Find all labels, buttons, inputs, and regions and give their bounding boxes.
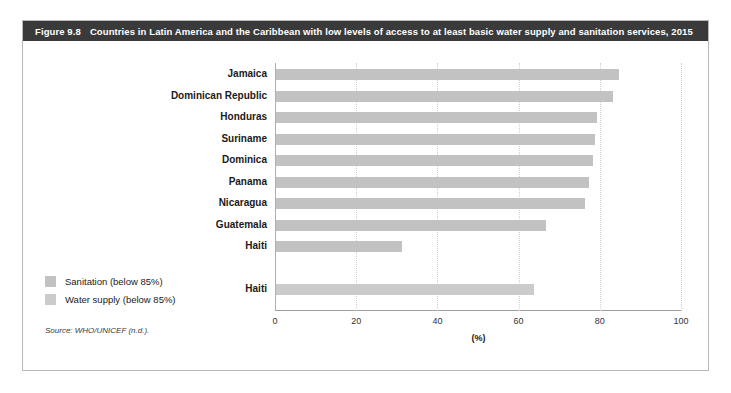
bar-fill-sanitation	[276, 155, 593, 166]
bar	[276, 91, 613, 102]
bar	[276, 134, 595, 145]
bar	[276, 155, 593, 166]
bar-fill-sanitation	[276, 112, 597, 123]
legend-swatch-sanitation	[45, 276, 56, 287]
bar-fill-sanitation	[276, 220, 546, 231]
x-tick-label: 20	[351, 316, 361, 326]
bar	[276, 284, 534, 295]
category-label: Dominica	[37, 154, 267, 165]
category-label: Dominican Republic	[37, 90, 267, 101]
legend-item: Sanitation (below 85%)	[45, 276, 176, 287]
x-axis-line	[275, 310, 682, 311]
bar-fill-water	[276, 284, 534, 295]
x-tick-label: 0	[272, 316, 277, 326]
x-axis-title: (%)	[275, 333, 682, 343]
legend-item: Water supply (below 85%)	[45, 294, 176, 305]
category-label: Suriname	[37, 133, 267, 144]
plot-area: 020406080100 (%)	[275, 63, 682, 311]
category-label: Panama	[37, 176, 267, 187]
bar	[276, 112, 597, 123]
category-label: Nicaragua	[37, 197, 267, 208]
bar-fill-sanitation	[276, 134, 595, 145]
bar	[276, 241, 402, 252]
category-label: Jamaica	[37, 68, 267, 79]
bar	[276, 198, 585, 209]
bar-fill-sanitation	[276, 241, 402, 252]
bar-fill-sanitation	[276, 198, 585, 209]
bar-fill-sanitation	[276, 177, 589, 188]
x-tick-label: 80	[595, 316, 605, 326]
category-label: Honduras	[37, 111, 267, 122]
category-label: Haiti	[37, 240, 267, 251]
figure-title: Countries in Latin America and the Carib…	[90, 26, 693, 37]
bar	[276, 177, 589, 188]
x-tick-label: 40	[432, 316, 442, 326]
figure-title-bar: Figure 9.8 Countries in Latin America an…	[23, 21, 708, 41]
legend-swatch-water	[45, 294, 56, 305]
figure-container: Figure 9.8 Countries in Latin America an…	[22, 20, 709, 371]
bar	[276, 69, 619, 80]
x-tick-label: 100	[673, 316, 688, 326]
legend-label: Water supply (below 85%)	[65, 294, 176, 305]
figure-number: Figure 9.8	[35, 26, 81, 37]
category-label: Guatemala	[37, 219, 267, 230]
x-tick-label: 60	[514, 316, 524, 326]
bar	[276, 220, 546, 231]
bar-fill-sanitation	[276, 91, 613, 102]
category-axis-labels: JamaicaDominican RepublicHondurasSurinam…	[35, 63, 267, 311]
legend-label: Sanitation (below 85%)	[65, 276, 163, 287]
source-note: Source: WHO/UNICEF (n.d.).	[45, 326, 149, 335]
chart-legend: Sanitation (below 85%)Water supply (belo…	[45, 276, 176, 312]
gridline	[681, 63, 682, 311]
bar-fill-sanitation	[276, 69, 619, 80]
